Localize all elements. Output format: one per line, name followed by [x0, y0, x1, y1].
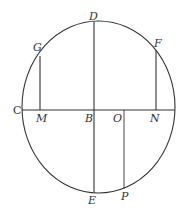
label-O: O: [113, 112, 122, 125]
label-G: G: [33, 41, 42, 54]
label-N: N: [149, 112, 160, 125]
label-M: M: [35, 112, 48, 125]
label-D: D: [88, 10, 98, 23]
label-F: F: [153, 37, 162, 50]
ellipse: [22, 21, 175, 193]
label-C: C: [13, 104, 21, 117]
ellipse-diagram: D G F C M B O N E P: [0, 0, 184, 220]
label-E: E: [87, 194, 96, 207]
label-P: P: [120, 190, 129, 203]
label-B: B: [84, 112, 93, 125]
